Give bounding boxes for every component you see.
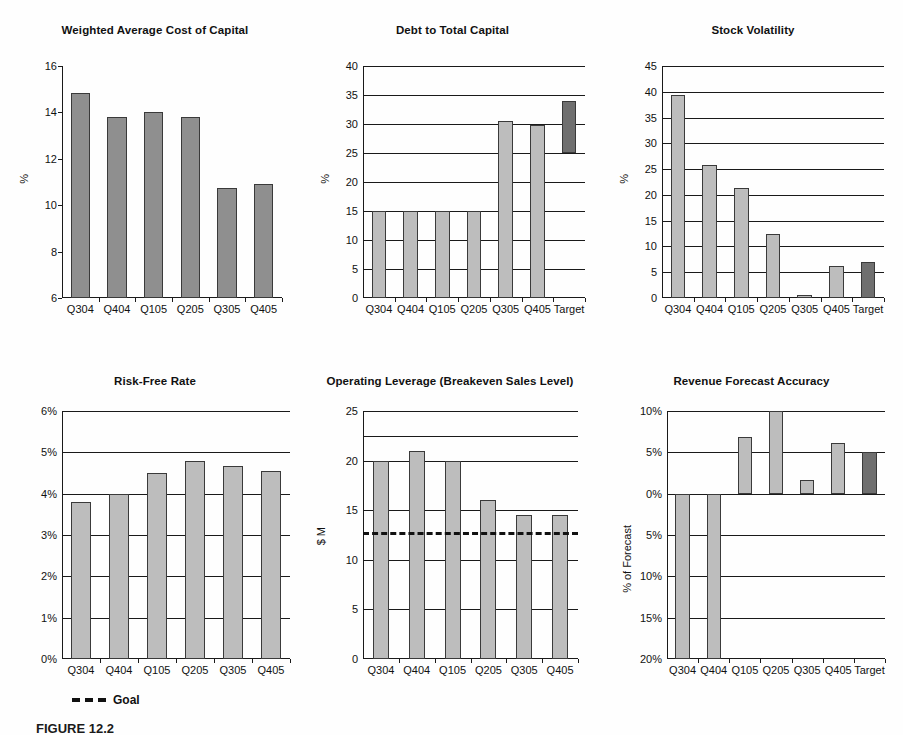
- y-axis-tick-label: 20: [346, 455, 358, 466]
- y-axis-tick-label: 16: [45, 61, 57, 72]
- chart-title-revenue: Revenue Forecast Accuracy: [605, 375, 898, 387]
- y-axis-tick-label: 15%: [640, 612, 662, 623]
- gridline: [62, 411, 290, 412]
- y-tick-mark: [58, 298, 62, 299]
- y-tick-mark: [58, 159, 62, 160]
- y-axis-tick-label: 30: [645, 138, 657, 149]
- bar-q304: [373, 461, 389, 659]
- bar-q405: [261, 471, 282, 659]
- y-axis-tick-label: 40: [346, 61, 358, 72]
- bar-target: [562, 101, 577, 153]
- y-axis-tick-label: 5: [352, 264, 358, 275]
- x-axis-tick-label: Q404: [100, 665, 138, 676]
- x-tick-mark: [578, 659, 579, 663]
- x-tick-mark: [757, 298, 758, 302]
- y-axis-tick-label: 8: [51, 246, 57, 257]
- x-axis-tick-label: Q404: [399, 665, 435, 676]
- x-axis-tick-label: Q304: [363, 665, 399, 676]
- x-tick-mark: [792, 659, 793, 663]
- bar-q304: [675, 494, 689, 659]
- y-axis-tick-label: 10: [645, 241, 657, 252]
- chart-panel-riskfree: Risk-Free Rate 0%1%2%3%4%5%6%Q304Q404Q10…: [10, 375, 300, 675]
- chart-panel-opleverage: Operating Leverage (Breakeven Sales Leve…: [295, 375, 605, 675]
- y-axis-tick-label: 10: [346, 554, 358, 565]
- bar-q205: [480, 500, 496, 659]
- x-tick-mark: [209, 298, 210, 302]
- x-axis-tick-label: Q405: [823, 665, 854, 676]
- y-axis-tick-label: 15: [645, 215, 657, 226]
- plot-area-volatility: 051015202530354045Q304Q404Q105Q205Q305Q4…: [662, 66, 884, 298]
- bar-q305: [498, 121, 513, 298]
- legend-goal: Goal: [72, 693, 140, 707]
- y-axis-line: [62, 66, 63, 298]
- gridline: [667, 535, 885, 536]
- y-tick-mark: [58, 66, 62, 67]
- x-axis-tick-label: Target: [553, 304, 585, 315]
- chart-panel-wacc: Weighted Average Cost of Capital 6810121…: [10, 24, 300, 314]
- x-axis-tick-label: Q305: [209, 304, 246, 315]
- gridline: [363, 510, 578, 511]
- gridline: [62, 576, 290, 577]
- x-tick-mark: [99, 298, 100, 302]
- chart-panel-volatility: Stock Volatility 051015202530354045Q304Q…: [608, 24, 898, 314]
- y-axis-tick-label: 5: [352, 604, 358, 615]
- y-axis-tick-label: 0: [651, 293, 657, 304]
- bar-target: [862, 452, 876, 493]
- bar-q404: [702, 165, 717, 298]
- bar-q305: [800, 480, 814, 493]
- gridline: [62, 494, 290, 495]
- x-axis-tick-label: Q205: [471, 665, 507, 676]
- gridline: [363, 411, 578, 412]
- x-tick-mark: [553, 298, 554, 302]
- x-tick-mark: [399, 659, 400, 663]
- x-tick-mark: [585, 298, 586, 302]
- y-axis-tick-label: 15: [346, 505, 358, 516]
- plot-area-debt: 0510152025303540Q304Q404Q105Q205Q305Q405…: [363, 66, 585, 298]
- gridline: [62, 535, 290, 536]
- bar-q105: [435, 211, 450, 298]
- y-axis-tick-label: 5: [651, 267, 657, 278]
- x-tick-mark: [885, 659, 886, 663]
- y-axis-tick-label: 10: [346, 235, 358, 246]
- x-axis-tick-label: Q205: [757, 304, 789, 315]
- y-tick-mark: [58, 112, 62, 113]
- y-axis-tick-label: 5%: [646, 530, 662, 541]
- x-tick-mark: [245, 298, 246, 302]
- y-axis-tick-label: 10%: [640, 571, 662, 582]
- gridline: [62, 618, 290, 619]
- y-axis-tick-label: 5%: [646, 447, 662, 458]
- y-axis-title-opleverage: $ M: [315, 527, 327, 545]
- x-tick-mark: [282, 298, 283, 302]
- y-axis-tick-label: 25: [346, 148, 358, 159]
- x-tick-mark: [426, 298, 427, 302]
- x-tick-mark: [854, 659, 855, 663]
- x-axis-tick-label: Q305: [214, 665, 252, 676]
- bar-q305: [797, 295, 812, 298]
- figure-caption: FIGURE 12.2: [36, 721, 114, 735]
- x-axis-tick-label: Q304: [667, 665, 698, 676]
- y-tick-mark: [58, 252, 62, 253]
- gridline: [662, 66, 884, 67]
- bar-q405: [530, 125, 545, 298]
- plot-area-revenue: 20%15%10%5%0%5%10%Q304Q404Q105Q205Q305Q4…: [667, 411, 885, 659]
- y-axis-tick-label: 20: [346, 177, 358, 188]
- bar-q304: [71, 502, 92, 659]
- gridline: [363, 609, 578, 610]
- y-axis-tick-label: 20%: [640, 654, 662, 665]
- plot-area-riskfree: 0%1%2%3%4%5%6%Q304Q404Q105Q205Q305Q405: [62, 411, 290, 659]
- x-axis-tick-label: Q405: [821, 304, 853, 315]
- gridline: [363, 560, 578, 561]
- y-axis-tick-label: 10: [45, 200, 57, 211]
- y-axis-tick-label: 3%: [41, 530, 57, 541]
- bar-q205: [769, 411, 783, 494]
- gridline: [62, 452, 290, 453]
- y-axis-tick-label: 0: [352, 654, 358, 665]
- y-axis-title-volatility: %: [618, 174, 630, 184]
- y-axis-tick-label: 35: [645, 112, 657, 123]
- y-axis-tick-label: 6: [51, 293, 57, 304]
- x-tick-mark: [290, 659, 291, 663]
- x-axis-tick-label: Q304: [62, 304, 99, 315]
- bar-q405: [552, 515, 568, 659]
- y-axis-tick-label: 45: [645, 61, 657, 72]
- x-axis-tick-label: Q105: [725, 304, 757, 315]
